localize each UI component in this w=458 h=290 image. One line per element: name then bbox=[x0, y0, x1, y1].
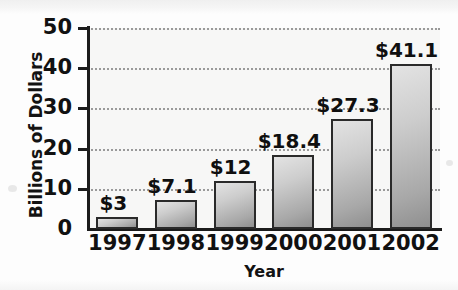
x-axis-tick-label: 1998 bbox=[147, 233, 206, 254]
x-axis-tick-label: 2001 bbox=[323, 233, 382, 254]
y-axis-tick-label: 30 bbox=[26, 97, 72, 118]
x-axis-tick-label: 1997 bbox=[88, 233, 147, 254]
gridline bbox=[88, 28, 440, 30]
y-axis-tick-label: 0 bbox=[26, 218, 72, 239]
y-axis-tick bbox=[78, 107, 88, 110]
y-axis-tick-label: 10 bbox=[26, 178, 72, 199]
bar-value-label: $41.1 bbox=[370, 40, 444, 60]
y-axis-tick bbox=[78, 67, 88, 70]
bar-value-label: $27.3 bbox=[311, 95, 385, 115]
x-axis-title: Year bbox=[88, 262, 440, 281]
y-axis-tick bbox=[78, 148, 88, 151]
x-axis-tick-label: 1999 bbox=[205, 233, 264, 254]
y-axis-tick-label: 20 bbox=[26, 138, 72, 159]
scan-artifact-bottom bbox=[0, 280, 458, 290]
scan-artifact-top bbox=[0, 0, 458, 14]
bar bbox=[96, 217, 138, 229]
bar-value-label: $18.4 bbox=[252, 131, 326, 151]
x-axis-tick-label: 2002 bbox=[381, 233, 440, 254]
chart-figure: Billions of Dollars 01020304050$31997$7.… bbox=[0, 0, 458, 290]
scan-speck bbox=[446, 160, 453, 166]
gridline bbox=[88, 108, 440, 110]
bar bbox=[155, 200, 197, 229]
scan-speck bbox=[8, 185, 17, 192]
bar bbox=[390, 64, 432, 229]
gridline bbox=[88, 68, 440, 70]
y-axis-tick bbox=[78, 27, 88, 30]
y-axis-tick bbox=[78, 188, 88, 191]
bar-value-label: $7.1 bbox=[135, 176, 209, 196]
x-axis-tick-label: 2000 bbox=[264, 233, 323, 254]
bar-value-label: $12 bbox=[194, 157, 268, 177]
bar bbox=[272, 155, 314, 229]
y-axis-tick-label: 40 bbox=[26, 57, 72, 78]
bar bbox=[214, 181, 256, 229]
y-axis-tick-label: 50 bbox=[26, 17, 72, 38]
bar bbox=[331, 119, 373, 229]
